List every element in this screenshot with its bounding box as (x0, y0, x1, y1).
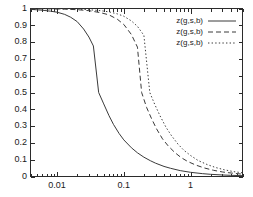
y-tick-label: 0.3 (14, 120, 27, 130)
chart-container: 00.10.20.30.40.50.60.70.80.91 0.010.11 z… (0, 0, 253, 197)
data-curves (31, 9, 243, 176)
plot-frame (31, 9, 243, 177)
y-tick-label: 0.7 (14, 53, 27, 63)
curve-dashed (31, 9, 243, 174)
y-tick-label: 0.8 (14, 36, 27, 46)
x-tick-label: 0.01 (48, 180, 66, 190)
y-tick-label: 1 (22, 3, 27, 13)
y-tick-label: 0 (22, 171, 27, 181)
legend-label: z(g,s,b) (176, 16, 203, 25)
legend-label: z(g,s,b) (176, 38, 203, 47)
y-tick-label: 0.2 (14, 137, 27, 147)
line-chart: 00.10.20.30.40.50.60.70.80.91 0.010.11 z… (0, 0, 253, 197)
curve-dotted (31, 9, 243, 173)
y-tick-label: 0.6 (14, 70, 27, 80)
curve-solid (31, 9, 243, 175)
y-tick-label: 0.5 (14, 87, 27, 97)
y-tick-label: 0.4 (14, 104, 27, 114)
y-axis-tick-labels: 00.10.20.30.40.50.60.70.80.91 (14, 3, 27, 181)
x-axis-tick-labels: 0.010.11 (48, 180, 193, 190)
y-tick-label: 0.1 (14, 154, 27, 164)
legend-label: z(g,s,b) (176, 27, 203, 36)
x-tick-label: 1 (188, 180, 193, 190)
x-tick-label: 0.1 (118, 180, 131, 190)
chart-legend: z(g,s,b)z(g,s,b)z(g,s,b) (176, 16, 236, 47)
y-tick-label: 0.9 (14, 20, 27, 30)
